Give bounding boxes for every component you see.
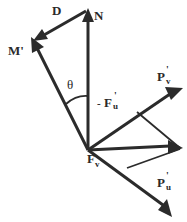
label-d: D: [52, 3, 61, 18]
theta-arc: [66, 96, 88, 104]
label-pv-sup: ': [166, 64, 169, 75]
construction-line-pv: [137, 112, 180, 148]
label-theta: θ: [67, 77, 73, 92]
label-fu-sup: ': [114, 90, 117, 101]
label-m-prime: M': [8, 43, 24, 58]
label-fv-sub: v: [95, 159, 100, 169]
label-fv: F: [87, 151, 95, 166]
label-fv-sup: ': [96, 146, 99, 157]
vector-n-arrowhead: [82, 8, 94, 22]
label-pu-sub: u: [166, 182, 171, 192]
vector-d: [44, 11, 86, 35]
label-pu: P: [157, 175, 165, 190]
label-pv-sub: v: [166, 76, 171, 86]
label-fu-sub: u: [113, 101, 118, 111]
force-diagram: D N M' θ - F ' u P ' v F ' v P ' u: [0, 0, 187, 222]
label-n: N: [94, 8, 104, 23]
label-pu-sup: ': [166, 170, 169, 181]
vector-pv-arrowhead: [165, 87, 183, 100]
vector-m-prime: [37, 48, 88, 150]
label-fu-minus: -: [97, 97, 101, 109]
construction-line-pu: [127, 149, 180, 168]
label-pv: P: [157, 69, 165, 84]
label-fu: F: [104, 95, 112, 110]
vector-resultant: [88, 146, 170, 150]
